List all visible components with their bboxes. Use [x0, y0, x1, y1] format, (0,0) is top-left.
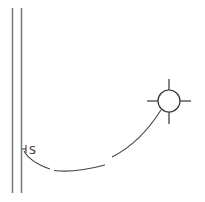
arc-segment-1: [24, 151, 50, 169]
ceiling-light-icon: [147, 79, 191, 124]
switch-label: S: [29, 144, 36, 157]
wall: [13, 8, 22, 193]
light-fixture-circle: [158, 90, 180, 112]
wiring-diagram: S: [0, 0, 205, 202]
switch-symbol: S: [22, 144, 36, 157]
arc-segment-2: [54, 165, 105, 171]
arc-segment-3: [112, 110, 161, 157]
switch-leg-arc: [24, 110, 161, 171]
